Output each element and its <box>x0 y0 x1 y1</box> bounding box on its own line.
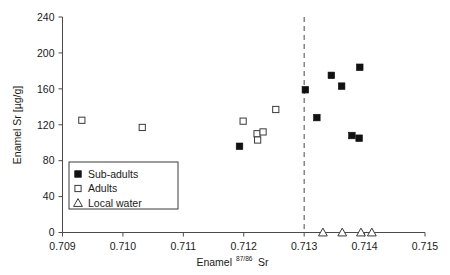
data-point-adult <box>79 117 85 123</box>
x-tick-label: 0.710 <box>110 240 136 252</box>
y-axis-ticks <box>59 17 63 233</box>
x-tick-label: 0.712 <box>231 240 257 252</box>
data-point-sub-adult <box>356 64 363 71</box>
chart-legend: Sub-adultsAdultsLocal water <box>69 162 178 209</box>
x-tick-label: 0.709 <box>49 240 75 252</box>
legend-label-3: Local water <box>88 197 142 209</box>
legend-label-2: Adults <box>88 182 117 194</box>
legend-label-1: Sub-adults <box>88 168 138 180</box>
x-tick-label: 0.715 <box>412 240 438 252</box>
legend-marker-2 <box>75 185 81 191</box>
y-axis-title: Enamel Sr [µg/g] <box>11 86 23 164</box>
y-tick-label: 80 <box>43 154 55 166</box>
x-axis-title: Enamel 87/86 Sr <box>196 255 269 268</box>
data-point-sub-adult <box>356 135 363 142</box>
y-tick-label: 240 <box>37 11 55 23</box>
chart-canvas: 04080120160200240 0.7090.7100.7110.7120.… <box>0 0 450 275</box>
x-axis-title-superscript: 87/86 <box>236 255 253 262</box>
x-axis-title-suffix: Sr <box>258 256 269 268</box>
data-point-adult <box>260 129 266 135</box>
y-tick-label: 0 <box>49 226 55 238</box>
scatter-chart-figure: 04080120160200240 0.7090.7100.7110.7120.… <box>0 0 450 275</box>
y-tick-label: 120 <box>37 119 55 131</box>
y-axis-tick-labels: 04080120160200240 <box>37 11 55 239</box>
x-tick-label: 0.713 <box>291 240 317 252</box>
data-point-adult <box>254 131 260 137</box>
x-axis-tick-labels: 0.7090.7100.7110.7120.7130.7140.715 <box>49 240 438 252</box>
data-point-sub-adult <box>328 72 335 79</box>
data-point-adult <box>240 118 246 124</box>
data-point-sub-adult <box>338 83 345 90</box>
data-point-sub-adult <box>349 132 356 139</box>
x-tick-label: 0.714 <box>351 240 377 252</box>
x-axis-title-main: Enamel <box>196 256 232 268</box>
data-point-adult <box>273 106 279 112</box>
data-point-sub-adult <box>236 143 243 150</box>
y-tick-label: 160 <box>37 83 55 95</box>
data-point-sub-adult <box>302 86 309 93</box>
x-tick-label: 0.711 <box>171 240 197 252</box>
series-adults-markers <box>79 106 279 143</box>
data-point-sub-adult <box>314 114 321 121</box>
data-point-adult <box>255 137 261 143</box>
data-point-adult <box>139 124 145 130</box>
y-tick-label: 200 <box>37 47 55 59</box>
legend-marker-1 <box>75 171 82 178</box>
y-tick-label: 40 <box>43 190 55 202</box>
